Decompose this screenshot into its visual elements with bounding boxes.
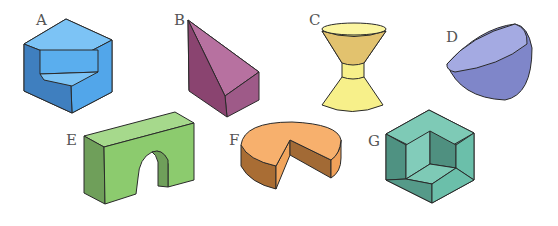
label-f: F bbox=[229, 131, 239, 149]
shape-e: E bbox=[66, 112, 194, 204]
label-d: D bbox=[446, 28, 458, 46]
label-a: A bbox=[35, 11, 47, 29]
label-b: B bbox=[174, 11, 185, 29]
label-c: C bbox=[309, 11, 320, 29]
label-e: E bbox=[66, 131, 77, 149]
shape-a: A bbox=[24, 11, 112, 113]
shape-b: B bbox=[174, 11, 259, 117]
shape-f: F bbox=[229, 122, 341, 189]
label-g: G bbox=[368, 132, 380, 150]
shape-g: G bbox=[368, 110, 474, 203]
shape-d: D bbox=[446, 24, 532, 100]
shape-c: C bbox=[309, 11, 386, 112]
solids-figure: A B C D E F bbox=[0, 0, 558, 226]
